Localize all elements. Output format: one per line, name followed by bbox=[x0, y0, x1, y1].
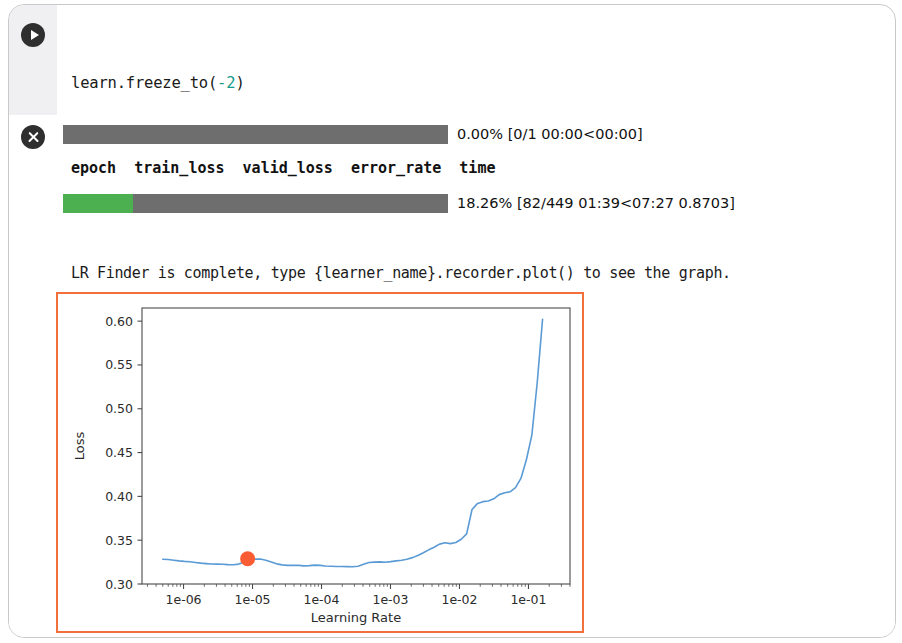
code-input-area[interactable]: learn.freeze_to(-2) learn.lr_find() lear… bbox=[9, 5, 896, 115]
notebook-cell: learn.freeze_to(-2) learn.lr_find() lear… bbox=[8, 4, 896, 638]
y-tick-label: 0.30 bbox=[105, 577, 133, 592]
x-tick-label: 1e-04 bbox=[303, 592, 339, 607]
y-tick-label: 0.50 bbox=[105, 401, 133, 416]
x-tick-label: 1e-03 bbox=[372, 592, 408, 607]
progress-label-top: 0.00% [0/1 00:00<00:00] bbox=[457, 126, 643, 142]
metrics-table-header: epoch train_loss valid_loss error_rate t… bbox=[71, 159, 495, 177]
progress-bar-top bbox=[63, 125, 448, 144]
plot-svg: 0.300.350.400.450.500.550.601e-061e-051e… bbox=[58, 294, 582, 631]
close-circle-icon[interactable] bbox=[21, 125, 45, 149]
y-tick-label: 0.55 bbox=[105, 357, 133, 372]
code-line-1: learn.freeze_to(-2) bbox=[71, 71, 400, 95]
cell-output-area: 0.00% [0/1 00:00<00:00] epoch train_loss… bbox=[9, 115, 896, 638]
progress-bar-bottom bbox=[63, 194, 448, 213]
progress-bar-bottom-fill bbox=[63, 194, 133, 213]
input-gutter bbox=[9, 5, 57, 115]
code-line-1-number: -2 bbox=[217, 74, 235, 92]
code-line-1-tail: ) bbox=[235, 74, 244, 92]
loss-curve bbox=[163, 319, 543, 566]
lr-finder-plot: 0.300.350.400.450.500.550.601e-061e-051e… bbox=[56, 292, 584, 633]
x-tick-label: 1e-02 bbox=[441, 592, 477, 607]
progress-row-top: 0.00% [0/1 00:00<00:00] bbox=[63, 124, 643, 144]
play-triangle bbox=[31, 30, 39, 40]
y-tick-label: 0.60 bbox=[105, 314, 133, 329]
progress-label-bottom: 18.26% [82/449 01:39<07:27 0.8703] bbox=[457, 195, 735, 211]
play-icon[interactable] bbox=[21, 23, 45, 47]
code-line-1-text: learn.freeze_to( bbox=[71, 74, 217, 92]
y-tick-label: 0.45 bbox=[105, 445, 133, 460]
x-tick-label: 1e-06 bbox=[166, 592, 202, 607]
x-axis-title: Learning Rate bbox=[311, 610, 401, 625]
log-line-1: LR Finder is complete, type {learner_nam… bbox=[71, 263, 731, 284]
x-tick-label: 1e-01 bbox=[510, 592, 546, 607]
y-tick-label: 0.35 bbox=[105, 533, 133, 548]
y-tick-label: 0.40 bbox=[105, 489, 133, 504]
x-tick-label: 1e-05 bbox=[234, 592, 270, 607]
suggested-lr-marker bbox=[240, 551, 255, 566]
progress-row-bottom: 18.26% [82/449 01:39<07:27 0.8703] bbox=[63, 193, 735, 213]
y-axis-title: Loss bbox=[72, 432, 87, 461]
